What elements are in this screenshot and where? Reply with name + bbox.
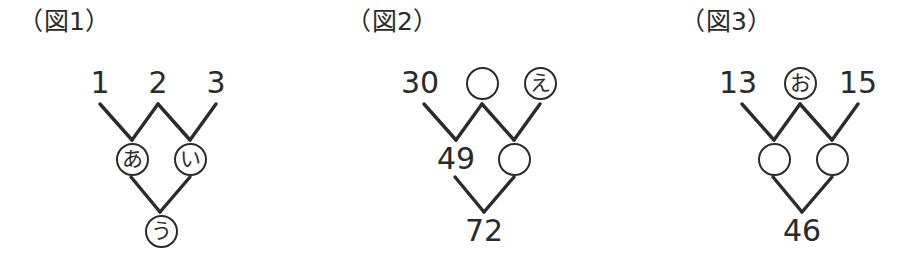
- node-value: 15: [839, 68, 877, 98]
- worksheet: （図1） 1 2 3 あ: [0, 0, 913, 261]
- node-figure1-bottom-0: う: [138, 211, 184, 251]
- node-figure2-top-2: え: [517, 63, 563, 103]
- blank-circle[interactable]: [816, 143, 849, 176]
- node-figure1-middle-1: い: [167, 139, 213, 179]
- circled-kana-u: う: [145, 215, 178, 248]
- node-figure1-top-1: 2: [135, 63, 181, 103]
- node-figure2-top-1[interactable]: [459, 63, 505, 103]
- node-value: 49: [437, 144, 475, 174]
- node-value: 30: [401, 68, 439, 98]
- node-figure2-middle-1[interactable]: [491, 139, 537, 179]
- blank-circle[interactable]: [498, 143, 531, 176]
- pyramid-1: 1 2 3 あ い う: [0, 0, 304, 261]
- circled-kana-i: い: [174, 143, 207, 176]
- node-figure3-top-2: 15: [835, 63, 881, 103]
- figure-panel-3: （図3） 13 お 15: [608, 0, 912, 261]
- node-value: 72: [465, 216, 503, 246]
- node-figure3-top-1: お: [777, 63, 823, 103]
- node-value: 2: [148, 68, 167, 98]
- node-figure2-bottom-0: 72: [461, 211, 507, 251]
- node-figure3-middle-0[interactable]: [751, 139, 797, 179]
- node-value: 3: [206, 68, 225, 98]
- node-figure1-top-0: 1: [77, 63, 123, 103]
- node-figure2-top-0: 30: [397, 63, 443, 103]
- circled-kana-e: え: [524, 67, 557, 100]
- circled-kana-o: お: [784, 67, 817, 100]
- node-figure3-middle-1[interactable]: [809, 139, 855, 179]
- figure-panel-2: （図2） 30 え 49: [304, 0, 608, 261]
- node-figure1-middle-0: あ: [109, 139, 155, 179]
- node-value: 1: [90, 68, 109, 98]
- blank-circle[interactable]: [466, 67, 499, 100]
- node-figure1-top-2: 3: [193, 63, 239, 103]
- node-value: 13: [719, 68, 757, 98]
- pyramid-3: 13 お 15 46: [608, 0, 912, 261]
- node-figure3-bottom-0: 46: [779, 211, 825, 251]
- node-value: 46: [783, 216, 821, 246]
- blank-circle[interactable]: [758, 143, 791, 176]
- circled-kana-a: あ: [116, 143, 149, 176]
- node-figure2-middle-0: 49: [433, 139, 479, 179]
- node-figure3-top-0: 13: [715, 63, 761, 103]
- figure-panel-1: （図1） 1 2 3 あ: [0, 0, 304, 261]
- pyramid-2: 30 え 49 72: [304, 0, 608, 261]
